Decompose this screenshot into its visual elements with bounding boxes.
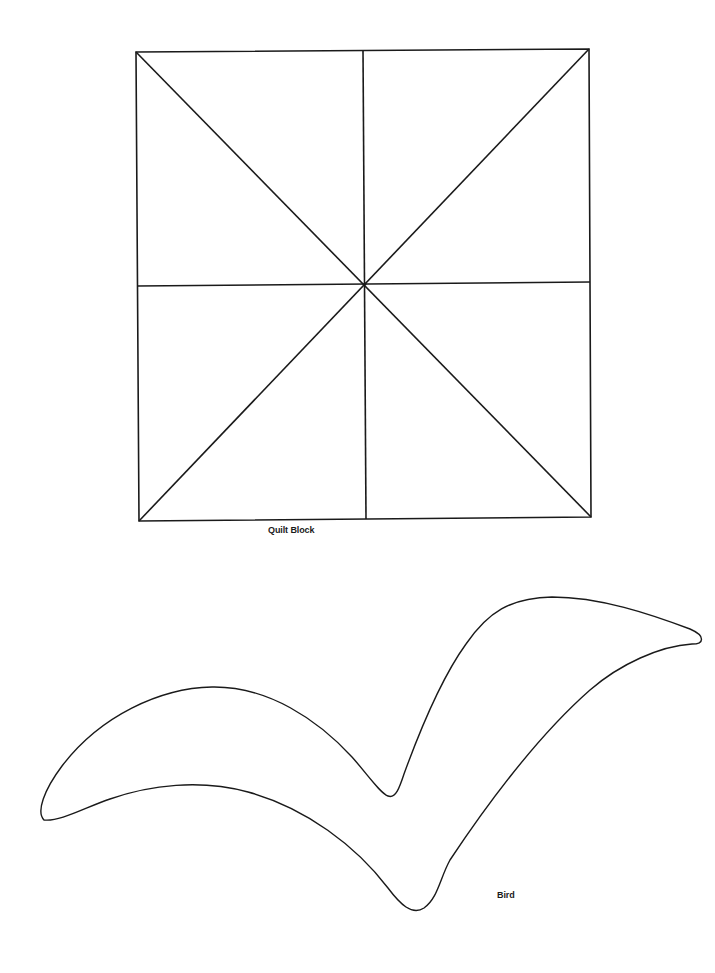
bird-outline (41, 597, 702, 911)
quilt-block-figure (136, 49, 591, 521)
bird-label: Bird (497, 890, 515, 900)
template-page: Quilt Block Bird (0, 0, 715, 973)
quilt-block-label: Quilt Block (268, 525, 314, 535)
quilt-center-point (363, 282, 366, 285)
template-artwork (0, 0, 715, 973)
